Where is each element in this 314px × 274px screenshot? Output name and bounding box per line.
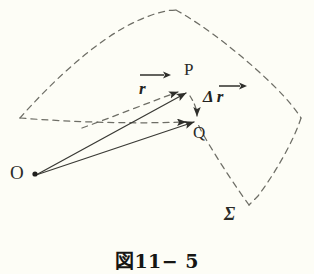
label-point-q: Q	[193, 124, 205, 141]
surface-edge-top-right	[176, 10, 301, 118]
surface-edge-right	[249, 118, 301, 205]
surface-edge-top-left	[20, 10, 176, 118]
delta-glyph: Δ	[203, 88, 214, 105]
label-surface-sigma: Σ	[224, 205, 235, 223]
vector-r-glyph: r	[139, 80, 146, 97]
label-vector-delta-r: Δr	[203, 88, 223, 105]
label-origin: O	[10, 163, 24, 182]
label-point-p: P	[184, 61, 193, 78]
position-vector-oq	[36, 122, 194, 175]
delta-r-glyph: r	[217, 88, 224, 105]
figure-container: O P Q Σ r Δr 図11− 5	[0, 0, 314, 274]
vector-field-diagram	[0, 0, 314, 274]
position-vector-op	[36, 93, 186, 175]
origin-point-dot	[32, 171, 37, 176]
label-vector-r: r	[139, 80, 146, 97]
displacement-p-to-q	[190, 96, 197, 116]
vector-arrow-r	[140, 72, 171, 79]
surface-edge-bottom	[198, 124, 249, 205]
figure-caption: 図11− 5	[0, 246, 314, 273]
